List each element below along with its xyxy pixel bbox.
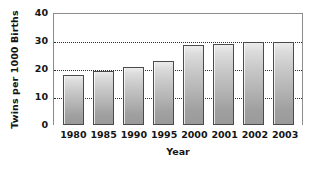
- y-tick-label-0: 0: [26, 120, 48, 129]
- y-tick-label-20: 20: [26, 64, 48, 73]
- y-tick-label-10: 10: [26, 92, 48, 101]
- bar-2003: [273, 42, 294, 125]
- bar-column: [181, 14, 205, 125]
- y-axis-tick-labels: 40 30 20 10 0: [24, 0, 48, 173]
- x-tick-label-2003: 2003: [272, 129, 296, 140]
- bar-column: [151, 14, 175, 125]
- bar-2002: [243, 42, 264, 125]
- x-tick-label-1980: 1980: [60, 129, 84, 140]
- bar-2001: [213, 44, 234, 125]
- bar-column: [61, 14, 85, 125]
- x-tick-label-2001: 2001: [211, 129, 235, 140]
- x-tick-label-2002: 2002: [242, 129, 266, 140]
- bar-1985: [93, 71, 114, 125]
- bar-1990: [123, 67, 144, 125]
- bar-column: [211, 14, 235, 125]
- x-tick-label-1995: 1995: [151, 129, 175, 140]
- x-tick-label-1985: 1985: [90, 129, 114, 140]
- bar-series: [54, 14, 302, 125]
- y-axis-label: Twins per 1000 Births: [9, 5, 20, 135]
- bar-1995: [153, 61, 174, 125]
- plot-area: [53, 13, 303, 125]
- x-tick-label-2000: 2000: [181, 129, 205, 140]
- bar-column: [241, 14, 265, 125]
- bar-column: [121, 14, 145, 125]
- x-tick-label-1990: 1990: [121, 129, 145, 140]
- bar-column: [91, 14, 115, 125]
- bar-1980: [63, 75, 84, 125]
- x-axis-tick-labels: 19801985199019952000200120022003: [53, 129, 303, 140]
- bar-chart-figure: Twins per 1000 Births 40 30 20 10 0 1980…: [0, 0, 329, 173]
- bar-column: [271, 14, 295, 125]
- y-tick-label-30: 30: [26, 36, 48, 45]
- bar-2000: [183, 45, 204, 125]
- x-axis-label: Year: [53, 146, 303, 157]
- y-tick-label-40: 40: [26, 8, 48, 17]
